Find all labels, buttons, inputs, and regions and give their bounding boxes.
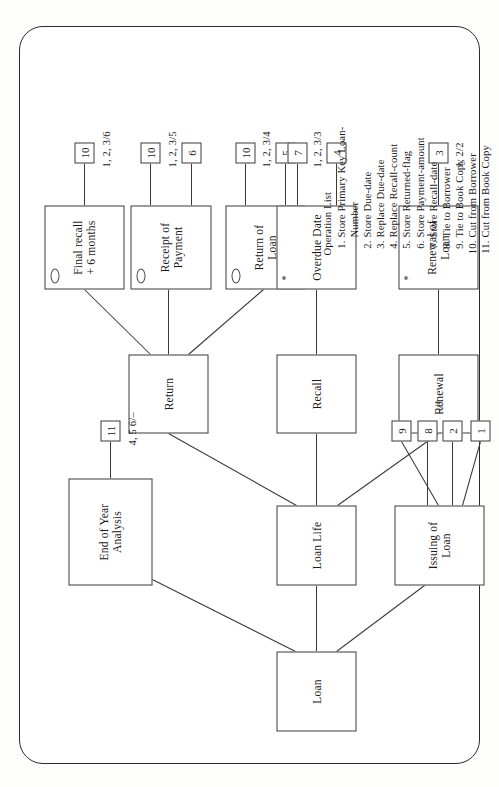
list-item: 1.Store Primary Key Loan-Number (335, 36, 361, 256)
node-loan-life[interactable]: Loan Life (277, 506, 357, 586)
op-box-issuing-0[interactable]: 9 (392, 421, 412, 442)
node-return-label: Return (162, 375, 175, 414)
circle-marker-icon (232, 269, 241, 284)
op-text: Store Recall-date (427, 162, 438, 238)
op-number: 3. (374, 241, 387, 256)
node-loan[interactable]: Loan (277, 652, 357, 732)
op-text: Store Due-date (362, 172, 373, 238)
node-receipt-of-payment[interactable]: Receipt of Payment (131, 206, 212, 290)
circle-marker-icon (137, 269, 146, 284)
diagram-canvas: Loan End of Year Analysis Loan Life Issu… (21, 28, 499, 764)
list-item: 3.Replace Due-date (374, 36, 387, 256)
op-number: 5. (400, 241, 413, 256)
op-box-value: 10 (145, 148, 157, 159)
list-item: 2.Store Due-date (361, 36, 374, 256)
asterisk-marker-icon: * (281, 272, 291, 283)
op-box-receipt-1[interactable]: 6 (182, 143, 202, 164)
op-number: 4. (387, 241, 400, 256)
operation-list-heading: Operation List (321, 36, 334, 256)
op-number: 1. (335, 241, 348, 256)
diagram-rotated-layer: Loan End of Year Analysis Loan Life Issu… (21, 28, 499, 764)
op-number: 9. (452, 241, 465, 256)
op-box-value: 6 (186, 150, 198, 156)
op-number: 2. (361, 241, 374, 256)
node-recall-label: Recall (310, 376, 323, 413)
node-recall[interactable]: Recall (277, 355, 357, 434)
op-text-continued: Number (348, 36, 361, 238)
op-number: 8. (439, 241, 452, 256)
op-text: Store Payment-amount (414, 137, 425, 237)
op-box-value: 9 (396, 428, 408, 434)
list-item: 10.Cut from Borrower (465, 36, 478, 256)
op-box-value: 11 (105, 426, 117, 437)
list-item: 4.Replace Recall-count (387, 36, 400, 256)
op-box-value: 2 (447, 428, 459, 434)
node-final-recall-6-months-label: Final recall + 6 months (72, 217, 98, 277)
asterisk-marker-icon: * (403, 272, 413, 283)
op-text: Replace Due-date (375, 160, 386, 238)
tag-receipt-of-payment: 1, 2, 3/5 (167, 131, 178, 167)
node-return-of-loan-label: Return of Loan (253, 222, 279, 274)
node-loan-life-label: Loan Life (310, 519, 323, 572)
node-issuing-of-loan-label: Issuing of Loan (427, 519, 453, 573)
op-text: Cut from Book Copy (479, 145, 490, 237)
list-item: 7.Store Recall-date (426, 36, 439, 256)
node-end-of-year-analysis[interactable]: End of Year Analysis (69, 479, 153, 586)
tag-return-of-loan: 1, 2, 3/4 (261, 131, 272, 167)
node-loan-label: Loan (310, 676, 323, 706)
list-item: 6.Store Payment-amount (413, 36, 426, 256)
op-box-issuing-3[interactable]: 1 (471, 421, 491, 442)
op-box-value: 10 (240, 148, 252, 159)
op-text: Cut from Borrower (466, 153, 477, 237)
op-box-value: 8 (422, 428, 434, 434)
op-box-value: 10 (79, 148, 91, 159)
op-number: 7. (426, 241, 439, 256)
op-text: Store Primary Key Loan- (336, 127, 347, 238)
scanned-page: Loan End of Year Analysis Loan Life Issu… (0, 0, 499, 787)
node-return[interactable]: Return (129, 355, 209, 434)
op-box-issuing-2[interactable]: 2 (443, 421, 463, 442)
operation-list-legend: Operation List 1.Store Primary Key Loan-… (321, 36, 492, 256)
node-receipt-of-payment-label: Receipt of Payment (158, 220, 184, 276)
op-text: Tie to Book Copy (453, 159, 464, 237)
list-item: 11.Cut from Book Copy (478, 36, 491, 256)
op-number: 10. (465, 241, 478, 256)
tag-issuing-of-loan: –/1 (433, 399, 444, 413)
node-end-of-year-analysis-label: End of Year Analysis (98, 501, 124, 564)
list-item: 5.Store Returned-flag (400, 36, 413, 256)
op-box-return-of-loan-0[interactable]: 10 (236, 143, 256, 164)
node-final-recall-6-months[interactable]: Final recall + 6 months (45, 206, 125, 290)
tag-end-of-year-analysis: 4, 5 6/– (127, 412, 138, 445)
op-text: Store Returned-flag (401, 151, 412, 238)
circle-marker-icon (51, 269, 60, 284)
page-frame: Loan End of Year Analysis Loan Life Issu… (19, 26, 480, 764)
op-box-value: 7 (292, 150, 304, 156)
op-text: Tie to Borrower (440, 167, 451, 237)
list-item: 9.Tie to Book Copy (452, 36, 465, 256)
operation-list-items: 1.Store Primary Key Loan-Number 2.Store … (335, 36, 492, 256)
op-number: 6. (413, 241, 426, 256)
op-box-end-of-year-0[interactable]: 11 (101, 421, 121, 442)
tag-final-recall: 1, 2, 3/6 (101, 131, 112, 167)
op-box-receipt-0[interactable]: 10 (141, 143, 161, 164)
op-box-issuing-1[interactable]: 8 (418, 421, 438, 442)
op-box-value: 1 (475, 428, 487, 434)
node-issuing-of-loan[interactable]: Issuing of Loan (395, 506, 485, 586)
op-text: Replace Recall-count (388, 144, 399, 238)
op-box-final-recall-0[interactable]: 10 (75, 143, 95, 164)
op-box-overdue-0[interactable]: 7 (288, 143, 308, 164)
op-number: 11. (478, 241, 491, 256)
list-item: 8.Tie to Borrower (439, 36, 452, 256)
